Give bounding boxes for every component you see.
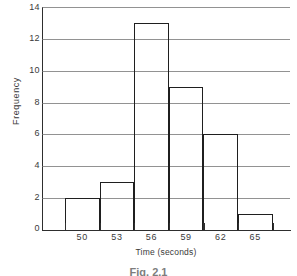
x-tick-label: 59 — [171, 232, 201, 242]
gridline — [42, 7, 290, 8]
x-tick-label: 50 — [67, 232, 97, 242]
x-tick-label: 62 — [206, 232, 236, 242]
figure-caption: Fig. 2.1 — [0, 266, 297, 276]
x-tick-mark — [134, 223, 135, 230]
x-tick-label: 56 — [137, 232, 167, 242]
y-tick-label: 8 — [18, 97, 40, 107]
y-tick-label: 12 — [18, 33, 40, 43]
y-tick-label: 0 — [18, 223, 40, 233]
histogram-bar — [238, 214, 273, 230]
x-tick-mark — [169, 223, 170, 230]
x-tick-mark — [100, 223, 101, 230]
x-tick-label: 65 — [240, 232, 270, 242]
y-tick-label: 14 — [18, 2, 40, 12]
y-tick-label: 2 — [18, 192, 40, 202]
y-tick-label: 4 — [18, 160, 40, 170]
histogram-bar — [134, 23, 169, 231]
x-tick-label: 53 — [102, 232, 132, 242]
x-tick-mark — [273, 223, 274, 230]
x-axis-tick-labels: 50 53 56 59 62 65 — [42, 232, 292, 246]
x-tick-mark — [65, 223, 66, 230]
histogram-bar — [203, 134, 238, 230]
plot-area — [42, 7, 290, 230]
histogram-figure: Frequency 14 12 10 8 6 4 2 0 — [0, 0, 297, 276]
histogram-bar — [100, 182, 135, 230]
histogram-bar — [65, 198, 100, 230]
histogram-bar — [169, 87, 204, 231]
x-axis-label: Time (seconds) — [42, 247, 290, 257]
y-axis-tick-labels: 14 12 10 8 6 4 2 0 — [16, 0, 40, 276]
y-tick-label: 10 — [18, 65, 40, 75]
y-tick-label: 6 — [18, 128, 40, 138]
x-tick-mark — [203, 223, 204, 230]
x-tick-mark — [238, 223, 239, 230]
